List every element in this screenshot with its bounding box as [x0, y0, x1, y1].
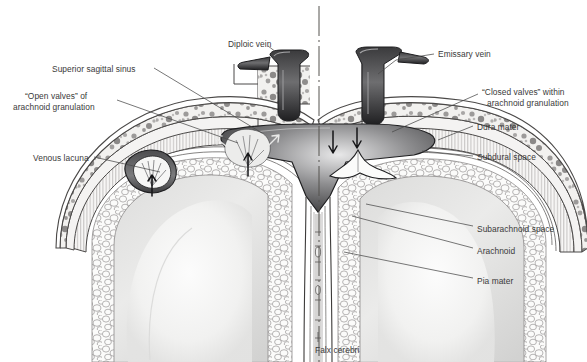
figure-canvas: Diploic vein Emissary vein Superior sagi… [0, 0, 587, 362]
label-venous-lacuna: Venous lacuna [33, 153, 89, 164]
anatomy-diagram [0, 0, 587, 362]
label-diploic-vein: Diploic vein [228, 39, 271, 50]
label-closed-valves: “Closed valves” within [482, 87, 565, 98]
label-pia-mater: Pia mater [477, 276, 513, 287]
label-superior-sagittal-sinus: Superior sagittal sinus [52, 64, 136, 75]
label-closed-valves-line2: arachnoid granulation [487, 98, 569, 109]
label-dura-mater: Dura mater [477, 122, 519, 133]
label-subdural-space: Subdural space [477, 152, 536, 163]
label-falx-cerebri: Falx cerebri [315, 345, 359, 356]
label-open-valves-line2: arachnoid granulation [13, 102, 95, 113]
label-open-valves: “Open valves” of [25, 91, 87, 102]
label-emissary-vein: Emissary vein [438, 49, 491, 60]
label-arachnoid: Arachnoid [477, 246, 515, 257]
label-subarachnoid-space: Subarachnoid space [477, 224, 554, 235]
